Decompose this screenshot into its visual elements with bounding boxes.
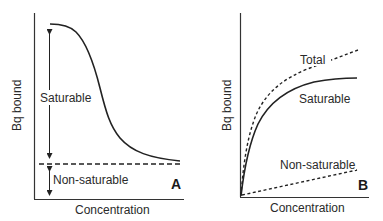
panel-b-nonsaturable-line <box>242 170 357 195</box>
panel-b-letter: B <box>358 177 368 193</box>
panel-b: Total Saturable Non-saturable B Concentr… <box>220 13 369 215</box>
panel-b-total-label: Total <box>300 53 325 67</box>
panel-a-nonsaturable-label: Non-saturable <box>53 173 129 187</box>
panel-b-nonsaturable-label: Non-saturable <box>280 158 356 172</box>
panel-b-y-label: Bq bound <box>220 80 234 131</box>
panel-b-x-label: Concentration <box>270 201 345 215</box>
binding-diagram: Saturable Non-saturable A Concentration … <box>0 0 383 221</box>
panel-a-y-label: Bq bound <box>10 80 24 131</box>
panel-a-x-label: Concentration <box>75 203 150 217</box>
panel-a: Saturable Non-saturable A Concentration … <box>10 13 184 217</box>
panel-b-saturable-label: Saturable <box>299 92 351 106</box>
panel-a-saturable-label: Saturable <box>40 91 92 105</box>
panel-a-letter: A <box>171 176 181 192</box>
